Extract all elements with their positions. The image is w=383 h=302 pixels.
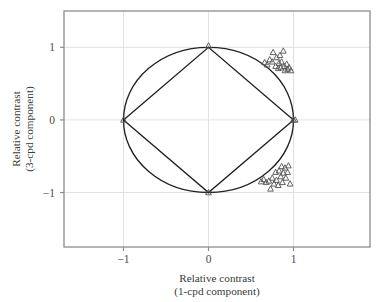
data-point-marker [268, 186, 274, 191]
figure-container: −101−101 Relative contrast (1-cpd compon… [0, 0, 383, 302]
data-point-marker [269, 175, 275, 180]
y-axis-label-line2: (3-cpd component) [23, 86, 36, 172]
data-markers [121, 43, 298, 195]
data-point-marker [283, 175, 289, 180]
x-axis-label-line2: (1-cpd component) [174, 285, 260, 298]
y-tick-label: −1 [43, 187, 55, 199]
data-point-marker [270, 49, 276, 54]
axis-tick-labels: −101−101 [43, 41, 297, 265]
x-tick-label: 1 [291, 253, 297, 265]
x-tick-label: 0 [206, 253, 212, 265]
gridlines [64, 11, 370, 247]
scatter-plot: −101−101 Relative contrast (1-cpd compon… [0, 0, 383, 302]
y-tick-label: 0 [49, 114, 55, 126]
data-point-marker [286, 163, 292, 168]
data-point-marker [280, 48, 286, 53]
series-lower-right-cluster [258, 163, 293, 192]
x-axis-label-line1: Relative contrast [179, 272, 255, 284]
y-axis-label-line1: Relative contrast [10, 90, 22, 166]
x-tick-label: −1 [117, 253, 129, 265]
data-point-marker [287, 181, 293, 186]
y-tick-label: 1 [49, 41, 55, 53]
plot-frame [64, 11, 370, 247]
plot-border [64, 11, 370, 247]
